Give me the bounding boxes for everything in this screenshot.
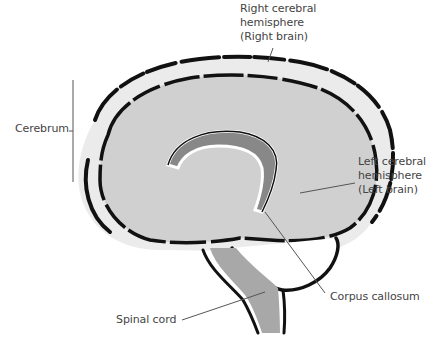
right-hemisphere-label-line3: (Right brain) <box>240 30 316 44</box>
left-hemisphere <box>100 75 377 243</box>
corpus-callosum-label: Corpus callosum <box>330 290 420 304</box>
cerebrum-label: Cerebrum <box>15 122 69 136</box>
right-hemisphere-label-line1: Right cerebral <box>240 2 316 16</box>
left-hemisphere-label-line3: (Left brain) <box>358 183 426 197</box>
right-hemisphere-label: Right cerebral hemisphere (Right brain) <box>240 2 316 44</box>
left-hemisphere-label: Left cerebral hemisphere (Left brain) <box>358 155 426 197</box>
right-hemisphere-label-line2: hemisphere <box>240 16 316 30</box>
left-hemisphere-label-line2: hemisphere <box>358 169 426 183</box>
spinal-cord-label: Spinal cord <box>116 313 176 327</box>
left-hemisphere-label-line1: Left cerebral <box>358 155 426 169</box>
